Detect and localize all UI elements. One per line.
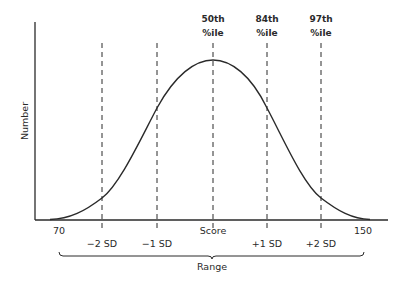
percentile-84-line2: %ile (256, 28, 277, 38)
plus-2sd-label: +2 SD (306, 238, 336, 249)
y-axis-label: Number (19, 102, 30, 140)
percentile-50-line1: 50th (201, 14, 224, 24)
percentile-97-line1: 97th (309, 14, 332, 24)
minus-2sd-label: −2 SD (87, 238, 117, 249)
x-min-label: 70 (53, 225, 65, 236)
percentile-97-line2: %ile (310, 28, 331, 38)
bell-curve (50, 60, 370, 220)
minus-1sd-label: −1 SD (142, 238, 172, 249)
range-label: Range (197, 261, 227, 272)
plus-1sd-label: +1 SD (252, 238, 282, 249)
range-bracket (59, 252, 364, 259)
percentile-50-line2: %ile (202, 28, 223, 38)
bell-curve-diagram: Number 50th %ile 84th %ile 97th %ile 70 … (0, 0, 407, 285)
x-max-label: 150 (354, 225, 372, 236)
percentile-84-line1: 84th (255, 14, 278, 24)
score-label: Score (200, 225, 227, 236)
